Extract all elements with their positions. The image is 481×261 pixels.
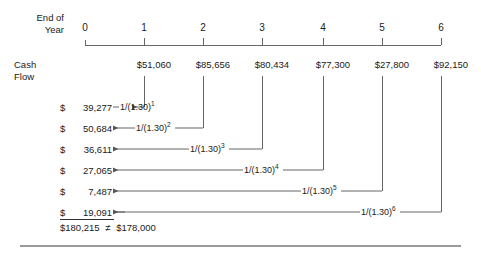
end-of-year-header-line1: End of [14,12,64,24]
discount-factor-6: 1/(1.30)6 [361,207,396,218]
not-equal-icon: ≠ [102,222,113,233]
discount-factor-2-base: 1/(1.30) [136,123,167,133]
initial-investment-amount: $178,000 [116,222,156,233]
discount-factor-4-exponent: 4 [275,163,279,170]
present-value-total: $180,215 [60,222,100,233]
discount-factor-4: 1/(1.30)4 [244,165,279,176]
tick-label-5: 5 [372,22,392,33]
discount-factor-3-base: 1/(1.30) [190,144,221,154]
cash-flow-amount-year-2: $85,656 [176,59,230,70]
tick-label-1: 1 [134,22,154,33]
cash-flow-header-line1: Cash [14,59,64,71]
tick-label-6: 6 [431,22,451,33]
discount-factor-3: 1/(1.30)3 [190,144,225,155]
end-of-year-header: End of Year [14,12,64,36]
cash-flow-amount-year-6: $92,150 [414,59,468,70]
discounted-dollar-sign-3: $ [60,144,70,155]
end-of-year-header-line2: Year [14,24,64,36]
cash-flow-header-line2: Flow [14,71,64,83]
discounted-value-6: 19,091 [70,207,112,218]
dcf-timeline-figure: End of Year Cash Flow 0 1 2 3 4 5 6 $51,… [0,0,481,261]
discounted-dollar-sign-1: $ [60,102,70,113]
discount-factor-1: 1/(1.30)1 [120,102,155,113]
discount-factor-5: 1/(1.30)5 [302,186,337,197]
discount-factor-4-base: 1/(1.30) [244,165,275,175]
timeline-axis [85,38,441,45]
cash-flow-amount-year-1: $51,060 [117,59,171,70]
discount-factor-3-exponent: 3 [221,142,225,149]
discounted-value-4: 27,065 [70,165,112,176]
cash-flow-amount-year-5: $27,800 [355,59,409,70]
discount-factor-5-base: 1/(1.30) [302,186,333,196]
discount-factor-1-base: 1/(1.30) [120,102,151,112]
total-comparison-row: $180,215 ≠ $178,000 [60,222,156,233]
discount-factor-2-exponent: 2 [167,121,171,128]
discounted-value-3: 36,611 [70,144,112,155]
cash-flow-amount-year-4: $77,300 [296,59,350,70]
discounted-value-1: 39,277 [70,102,112,113]
discount-factor-5-exponent: 5 [333,184,337,191]
tick-label-3: 3 [252,22,272,33]
cashflow-drop-lines [144,76,441,212]
discounted-dollar-sign-6: $ [60,207,70,218]
discount-factor-6-exponent: 6 [392,205,396,212]
tick-label-4: 4 [313,22,333,33]
discounted-dollar-sign-2: $ [60,123,70,134]
discounted-value-2: 50,684 [70,123,112,134]
discounted-value-5: 7,487 [70,186,112,197]
discount-factor-2: 1/(1.30)2 [136,123,171,134]
discount-factor-6-base: 1/(1.30) [361,207,392,217]
discounted-dollar-sign-4: $ [60,165,70,176]
cash-flow-header: Cash Flow [14,59,64,83]
tick-label-0: 0 [75,22,95,33]
cash-flow-amount-year-3: $80,434 [235,59,289,70]
discount-factor-1-exponent: 1 [151,100,155,107]
discounted-dollar-sign-5: $ [60,186,70,197]
tick-label-2: 2 [193,22,213,33]
